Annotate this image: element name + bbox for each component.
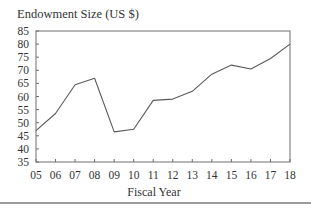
y-tick-label: 65: [18, 77, 30, 89]
x-tick-label: 06: [50, 169, 62, 181]
x-tick-label: 11: [148, 169, 159, 181]
x-tick-label: 09: [108, 169, 120, 181]
x-axis-label: Fiscal Year: [127, 185, 180, 199]
plot-frame: [36, 31, 290, 162]
y-tick-label: 45: [18, 130, 30, 142]
x-tick-label: 12: [167, 169, 179, 181]
y-tick-label: 75: [18, 51, 30, 63]
x-tick-label: 18: [284, 169, 296, 181]
x-tick-label: 08: [89, 169, 101, 181]
y-tick-label: 80: [18, 38, 30, 50]
y-tick-label: 40: [18, 143, 30, 155]
x-tick-label: 10: [128, 169, 140, 181]
y-tick-label: 70: [18, 64, 30, 76]
x-tick-label: 13: [187, 169, 199, 181]
line-chart: Endowment Size (US $) 354045505560657075…: [0, 0, 311, 210]
x-tick-label: 05: [30, 169, 42, 181]
y-tick-label: 50: [18, 117, 30, 129]
x-tick-label: 07: [69, 169, 81, 181]
chart-title: Endowment Size (US $): [17, 7, 139, 21]
y-tick-label: 85: [18, 25, 30, 37]
y-tick-label: 60: [18, 91, 30, 103]
y-tick-label: 55: [18, 104, 30, 116]
x-tick-label: 15: [226, 169, 238, 181]
x-tick-label: 14: [206, 169, 218, 181]
y-tick-label: 35: [18, 156, 30, 168]
series-line-endowment: [36, 44, 290, 132]
x-tick-label: 17: [265, 169, 277, 181]
x-tick-label: 16: [245, 169, 257, 181]
